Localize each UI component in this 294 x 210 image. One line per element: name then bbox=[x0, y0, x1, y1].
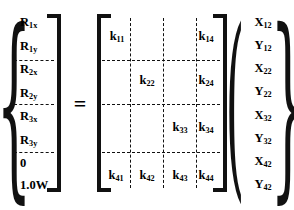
displacement-vector-entry-sub: 42 bbox=[263, 183, 271, 192]
stiffness-matrix-cell-sub: 43 bbox=[179, 174, 187, 183]
displacement-vector-entry-sub: 22 bbox=[263, 90, 271, 99]
stiffness-matrix-cell: k33 bbox=[172, 121, 187, 135]
stiffness-matrix-cell-sub: 22 bbox=[146, 79, 154, 88]
displacement-vector-entry: X22 bbox=[254, 62, 271, 76]
stiffness-matrix-cell: k44 bbox=[198, 169, 213, 183]
stiffness-matrix-cell-sub: 11 bbox=[117, 35, 125, 44]
displacement-vector-entry-sub: 32 bbox=[263, 137, 271, 146]
stiffness-matrix-cell-sub: 44 bbox=[205, 174, 213, 183]
displacement-vector-entry: X32 bbox=[254, 109, 271, 123]
stiffness-matrix-cell: k24 bbox=[198, 74, 213, 88]
stiffness-matrix-col-divider bbox=[130, 18, 131, 188]
stiffness-matrix-cell-sub: 24 bbox=[205, 79, 213, 88]
matrix-equation: { R1x R1y R2x R2y R3x R3y 0 1.0W bbox=[0, 0, 294, 210]
displacement-vector-entries: X12 Y12 X22 Y22 X32 Y32 X42 Y42 bbox=[242, 16, 284, 192]
stiffness-matrix-row-divider bbox=[102, 104, 220, 105]
stiffness-matrix-cell-sub: 41 bbox=[115, 174, 123, 183]
stiffness-matrix-cell-sub: 42 bbox=[146, 174, 154, 183]
displacement-vector-entry: Y12 bbox=[254, 39, 271, 53]
displacement-vector-entry-sub: 32 bbox=[263, 113, 271, 122]
displacement-vector-entry-sub: 22 bbox=[263, 67, 271, 76]
stiffness-matrix-cell: k22 bbox=[139, 74, 154, 88]
displacement-vector-entry: Y32 bbox=[254, 132, 271, 146]
stiffness-matrix-cell: k43 bbox=[172, 169, 187, 183]
stiffness-matrix-col-divider bbox=[196, 18, 197, 188]
displacement-vector-entry: Y42 bbox=[254, 178, 271, 192]
displacement-vector-entry: X42 bbox=[254, 155, 271, 169]
displacement-vector-entry: X12 bbox=[254, 16, 271, 30]
displacement-vector-entry-sub: 12 bbox=[263, 44, 271, 53]
stiffness-matrix-cell-sub: 34 bbox=[205, 126, 213, 135]
stiffness-matrix-cell: k14 bbox=[198, 30, 213, 44]
stiffness-matrix-row-divider bbox=[102, 152, 220, 153]
displacement-vector-entry-sub: 12 bbox=[263, 21, 271, 30]
stiffness-matrix-cell-sub: 14 bbox=[205, 35, 213, 44]
stiffness-matrix-col-divider bbox=[163, 18, 164, 188]
stiffness-matrix-cell: k11 bbox=[110, 30, 125, 44]
displacement-vector-entry-sub: 42 bbox=[263, 160, 271, 169]
stiffness-matrix-cell: k41 bbox=[108, 169, 123, 183]
stiffness-matrix-cell-sub: 33 bbox=[179, 126, 187, 135]
stiffness-matrix-cell: k34 bbox=[198, 121, 213, 135]
stiffness-matrix-cell: k42 bbox=[139, 169, 154, 183]
stiffness-matrix-row-divider bbox=[102, 60, 220, 61]
displacement-vector-entry: Y22 bbox=[254, 85, 271, 99]
